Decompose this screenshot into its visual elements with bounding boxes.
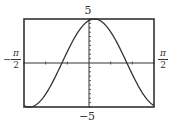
y-min-label: −5 xyxy=(76,111,98,122)
x-min-denominator: 2 xyxy=(11,60,21,70)
x-max-numerator: π xyxy=(158,49,168,60)
x-min-label: π 2 xyxy=(11,49,21,70)
x-min-numerator: π xyxy=(11,49,21,60)
x-max-denominator: 2 xyxy=(158,60,168,70)
y-max-label: 5 xyxy=(82,5,94,16)
x-max-label: π 2 xyxy=(158,49,168,70)
x-min-sign: − xyxy=(3,55,11,65)
